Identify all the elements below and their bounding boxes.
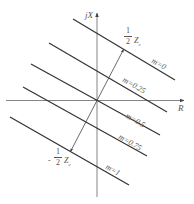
y-axis-label: jX bbox=[85, 11, 93, 20]
top-zc-label: Zc bbox=[134, 37, 141, 47]
top-fraction: 1 2 bbox=[124, 27, 132, 46]
top-fraction-numerator: 1 bbox=[124, 27, 132, 35]
bottom-zc-label: Zc bbox=[64, 157, 71, 167]
bottom-fraction: 1 2 bbox=[54, 148, 62, 167]
line-m-1 bbox=[10, 117, 129, 185]
top-fraction-denominator: 2 bbox=[124, 38, 132, 46]
bottom-fraction-denominator: 2 bbox=[54, 159, 62, 167]
bottom-fraction-numerator: 1 bbox=[54, 148, 62, 156]
line-m-0.25 bbox=[49, 43, 167, 112]
impedance-diagram bbox=[0, 0, 194, 204]
x-axis-label: R bbox=[178, 104, 184, 113]
bottom-sign: - bbox=[48, 157, 51, 165]
bottom-zc-subscript: c bbox=[68, 162, 70, 167]
top-zc-subscript: c bbox=[138, 42, 140, 47]
